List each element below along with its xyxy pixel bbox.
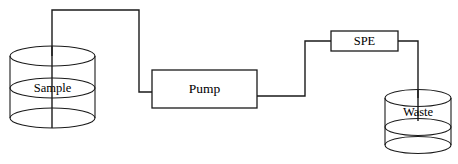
spe-label: SPE: [354, 34, 376, 48]
node-spe: SPE: [331, 31, 398, 51]
sample-label: Sample: [34, 81, 72, 95]
pump-label: Pump: [189, 81, 221, 96]
waste-label: Waste: [403, 105, 434, 119]
node-pump: Pump: [152, 70, 257, 108]
process-flow-diagram: Sample Pump SPE Waste: [0, 0, 458, 164]
node-sample-vessel: Sample: [10, 46, 95, 128]
node-waste-vessel: Waste: [385, 90, 451, 154]
diagram-canvas: Sample Pump SPE Waste: [0, 0, 458, 164]
connector-pump-to-spe: [257, 41, 331, 96]
